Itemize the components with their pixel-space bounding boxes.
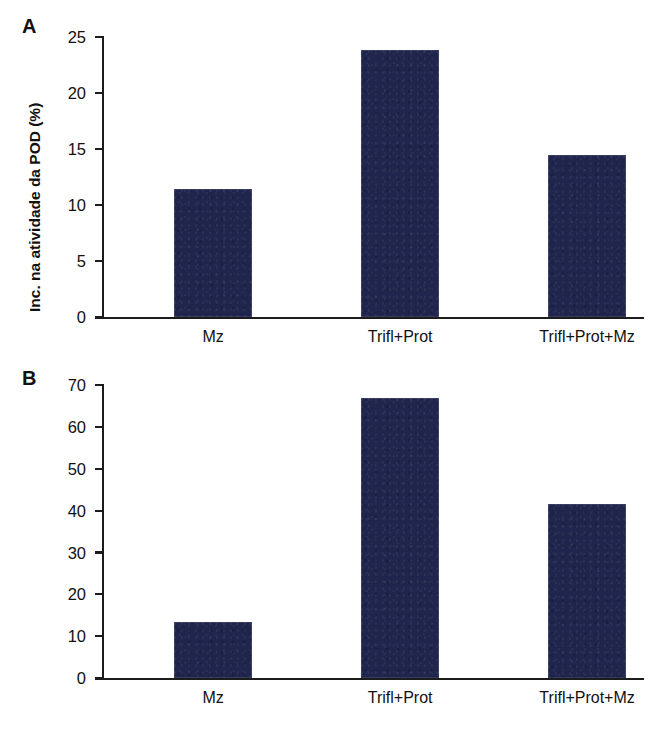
y-tick-label: 10	[68, 196, 86, 215]
y-tick-label: 0	[77, 669, 86, 688]
y-tick-mark: 50	[95, 468, 103, 470]
y-tick-mark: 5	[95, 260, 103, 262]
plot-area-b: 010203040506070MzTrifl+ProtTrifl+Prot+Mz	[102, 385, 644, 678]
bar-b-0	[174, 622, 252, 679]
y-tick-mark: 0	[95, 677, 103, 679]
panel-letter-b: B	[22, 368, 36, 388]
y-tick-label: 60	[68, 417, 86, 436]
y-tick-label: 0	[77, 308, 86, 327]
y-tick-mark: 10	[95, 635, 103, 637]
y-tick-label: 20	[68, 84, 86, 103]
bar-a-2	[548, 155, 626, 317]
y-tick-mark: 15	[95, 148, 103, 150]
bar-a-0	[174, 189, 252, 317]
plot-area-a: 0510152025MzTrifl+ProtTrifl+Prot+Mz	[102, 37, 644, 317]
y-tick-label: 50	[68, 459, 86, 478]
y-tick-label: 20	[68, 585, 86, 604]
y-tick-mark: 20	[95, 593, 103, 595]
y-tick-label: 10	[68, 627, 86, 646]
x-category-label-b-0: Mz	[202, 689, 223, 707]
x-category-label-b-2: Trifl+Prot+Mz	[539, 689, 634, 707]
y-tick-mark: 70	[95, 384, 103, 386]
x-category-label-a-0: Mz	[202, 328, 223, 346]
y-axis-line-a	[102, 36, 104, 318]
y-tick-label: 25	[68, 28, 86, 47]
y-tick-label: 5	[77, 252, 86, 271]
figure-root: A Inc. na atividade da POD (%) 051015202…	[0, 0, 655, 736]
bar-b-2	[548, 504, 626, 678]
y-tick-mark: 25	[95, 36, 103, 38]
chart-panel-a: A Inc. na atividade da POD (%) 051015202…	[0, 0, 655, 362]
y-tick-label: 40	[68, 501, 86, 520]
x-category-label-a-1: Trifl+Prot	[368, 328, 433, 346]
bar-b-1	[361, 398, 439, 678]
y-tick-mark: 40	[95, 510, 103, 512]
y-tick-mark: 30	[95, 551, 103, 553]
y-tick-mark: 0	[95, 316, 103, 318]
bar-a-1	[361, 50, 439, 317]
panel-letter-a: A	[22, 16, 36, 36]
y-tick-mark: 20	[95, 92, 103, 94]
y-tick-label: 15	[68, 140, 86, 159]
y-tick-label: 30	[68, 543, 86, 562]
y-axis-title-a: Inc. na atividade da POD (%)	[26, 103, 44, 312]
y-tick-mark: 10	[95, 204, 103, 206]
y-tick-label: 70	[68, 376, 86, 395]
x-category-label-a-2: Trifl+Prot+Mz	[539, 328, 634, 346]
chart-panel-b: B Inc. na atividade da POD (%) 010203040…	[0, 362, 655, 736]
x-category-label-b-1: Trifl+Prot	[368, 689, 433, 707]
y-tick-mark: 60	[95, 426, 103, 428]
